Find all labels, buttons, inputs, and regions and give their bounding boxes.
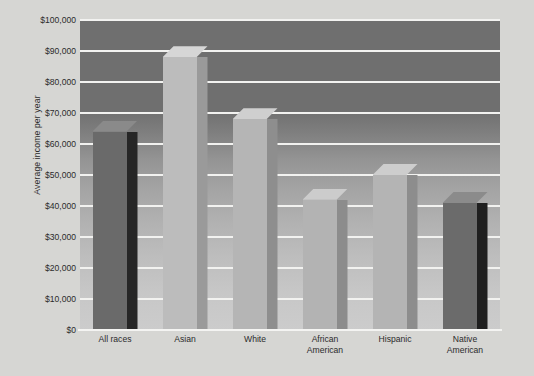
y-axis-tick-label: $50,000	[2, 170, 76, 180]
y-axis-tick-label: $90,000	[2, 46, 76, 56]
y-axis-tick-label: $20,000	[2, 263, 76, 273]
gridline	[80, 298, 500, 300]
bar-side-face	[407, 175, 418, 330]
gridline	[80, 174, 500, 176]
y-axis-tick-label: $60,000	[2, 139, 76, 149]
plot-area	[80, 20, 500, 330]
y-axis-tick-label: $10,000	[2, 294, 76, 304]
bar-side-face	[197, 57, 208, 330]
bar[interactable]	[373, 175, 407, 330]
bar-side-face	[337, 200, 348, 330]
bar[interactable]	[233, 119, 267, 330]
gridline	[80, 19, 500, 21]
gridline	[80, 205, 500, 207]
y-axis-tick-label: $30,000	[2, 232, 76, 242]
bar-front-face	[373, 175, 407, 330]
y-axis-tick-labels: $100,000$90,000$80,000$70,000$60,000$50,…	[0, 0, 76, 376]
income-bar-chart: Average income per year $100,000$90,000$…	[0, 0, 534, 376]
y-axis-tick-label: $40,000	[2, 201, 76, 211]
gridline	[80, 143, 500, 145]
gridline	[80, 50, 500, 52]
y-axis-tick-label: $0	[2, 325, 76, 335]
bar[interactable]	[163, 57, 197, 330]
bar[interactable]	[443, 203, 477, 330]
y-axis-tick-label: $80,000	[2, 77, 76, 87]
y-axis-tick-label: $100,000	[2, 15, 76, 25]
bar-front-face	[443, 203, 477, 330]
x-axis-tick-labels: All racesAsianWhiteAfrican AmericanHispa…	[80, 334, 500, 376]
x-axis-tick-label: Native American	[420, 334, 510, 356]
bar[interactable]	[93, 132, 127, 330]
bar[interactable]	[303, 200, 337, 330]
bar-top-face	[163, 46, 208, 57]
bar-top-face	[443, 192, 488, 203]
bar-front-face	[233, 119, 267, 330]
bar-side-face	[127, 132, 138, 330]
bar-front-face	[163, 57, 197, 330]
gridline	[80, 112, 500, 114]
bar-side-face	[477, 203, 488, 330]
bar-front-face	[93, 132, 127, 330]
bar-top-face	[93, 121, 138, 132]
bar-side-face	[267, 119, 278, 330]
bar-front-face	[303, 200, 337, 330]
gridline	[80, 81, 500, 83]
bar-top-face	[233, 108, 278, 119]
bar-top-face	[303, 189, 348, 200]
gridline	[80, 236, 500, 238]
gridline	[80, 267, 500, 269]
x-axis-baseline	[78, 329, 502, 331]
y-axis-tick-label: $70,000	[2, 108, 76, 118]
